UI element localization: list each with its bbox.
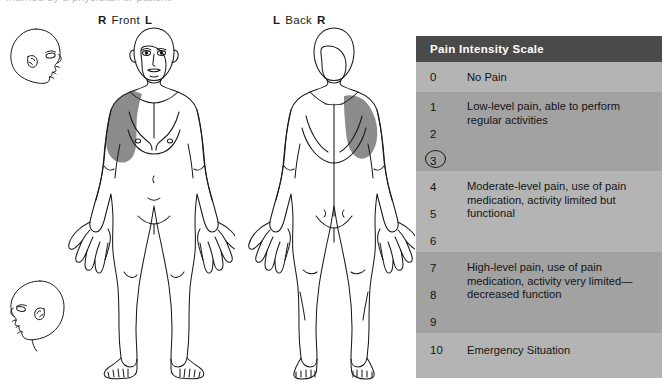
pain-level-9[interactable]: 9 (430, 317, 436, 329)
pain-band-0[interactable]: 0 No Pain (416, 62, 662, 92)
pain-desc-4-6: Moderate-level pain, use of pain medicat… (467, 180, 654, 221)
pain-level-10[interactable]: 10 (430, 345, 443, 357)
pain-band-1-3[interactable]: 1 2 3 Low-level pain, able to perform re… (416, 92, 662, 171)
pain-scale-header: Pain Intensity Scale (416, 36, 662, 62)
pain-level-8[interactable]: 8 (430, 290, 436, 302)
pain-scale-title: Pain Intensity Scale (430, 43, 544, 55)
cut-off-text-strip: marked by a physician or patient (0, 0, 671, 7)
pain-level-3[interactable]: 3 (430, 156, 436, 168)
pain-desc-7-9: High-level pain, use of pain medication,… (467, 261, 654, 302)
pain-level-6[interactable]: 6 (430, 236, 436, 248)
pain-intensity-scale-table: Pain Intensity Scale 0 No Pain 1 2 3 Low… (416, 36, 662, 378)
head-profile-right-icon (6, 26, 68, 92)
pain-shade-front-right-shoulder (106, 90, 142, 163)
pain-desc-0: No Pain (467, 71, 654, 85)
pain-level-0[interactable]: 0 (430, 72, 436, 84)
pain-level-4[interactable]: 4 (430, 182, 436, 194)
cut-off-text: marked by a physician or patient (6, 0, 171, 3)
pain-band-4-6[interactable]: 4 5 6 Moderate-level pain, use of pain m… (416, 171, 662, 252)
pain-level-5[interactable]: 5 (430, 209, 436, 221)
pain-level-2[interactable]: 2 (430, 129, 436, 141)
pain-assessment-page: marked by a physician or patient RFrontL… (0, 0, 671, 386)
pain-level-1[interactable]: 1 (430, 102, 436, 114)
body-diagram-front (60, 20, 235, 380)
pain-band-10[interactable]: 10 Emergency Situation (416, 333, 662, 378)
pain-level-7[interactable]: 7 (430, 263, 436, 275)
pain-shade-back-right-shoulder (344, 95, 377, 158)
pain-desc-10: Emergency Situation (467, 344, 654, 358)
pain-band-7-9[interactable]: 7 8 9 High-level pain, use of pain medic… (416, 252, 662, 333)
pain-desc-1-3: Low-level pain, able to perform regular … (467, 100, 654, 127)
body-diagram-back (240, 20, 415, 380)
